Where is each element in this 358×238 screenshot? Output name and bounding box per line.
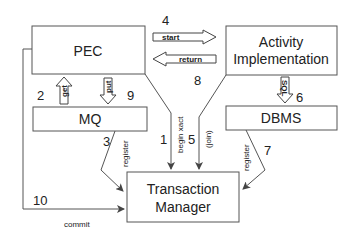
activity-label-line1: Activity — [259, 34, 303, 50]
sql-label: SQL — [280, 80, 289, 97]
return-label: return — [179, 55, 202, 64]
get-label: get — [60, 85, 69, 97]
begin-xact-label: begin xact — [176, 116, 185, 153]
return-arrow: return 8 — [153, 52, 216, 88]
start-number: 4 — [162, 13, 169, 28]
mq-register-number: 3 — [103, 134, 110, 149]
join-label: (join) — [204, 130, 213, 148]
put-number: 9 — [127, 88, 134, 103]
get-number: 2 — [37, 88, 44, 103]
join-number: 5 — [188, 132, 195, 147]
begin-xact-edge: begin xact 1 — [145, 74, 185, 169]
mq-register-label: register — [121, 140, 130, 167]
start-arrow: start 4 — [153, 13, 216, 44]
begin-xact-number: 1 — [160, 132, 167, 147]
dbms-node: DBMS — [226, 106, 337, 130]
commit-label: commit — [64, 220, 91, 229]
activity-label-line2: Implementation — [233, 51, 329, 67]
start-label: start — [162, 33, 180, 42]
activity-implementation-node: Activity Implementation — [226, 26, 337, 75]
join-edge: (join) 5 — [188, 75, 226, 169]
dbms-register-edge: register 7 — [242, 130, 271, 189]
return-number: 8 — [194, 73, 201, 88]
dbms-register-number: 7 — [264, 143, 271, 158]
mq-label: MQ — [79, 111, 102, 127]
mq-register-edge: register 3 — [101, 131, 130, 191]
dbms-label: DBMS — [261, 110, 301, 126]
sql-number: 6 — [296, 90, 303, 105]
pec-label: PEC — [74, 43, 103, 59]
dbms-register-label: register — [242, 144, 251, 171]
get-arrow: get 2 — [37, 77, 72, 104]
put-label: put — [104, 80, 113, 93]
put-arrow: put 9 — [100, 78, 134, 104]
pec-node: PEC — [32, 26, 145, 74]
sql-arrow: SQL 6 — [277, 77, 303, 105]
mq-node: MQ — [33, 107, 147, 131]
tm-label-line2: Manager — [155, 199, 211, 215]
transaction-manager-node: Transaction Manager — [127, 172, 239, 222]
diagram-canvas: PEC Activity Implementation MQ DBMS Tran… — [0, 0, 358, 238]
commit-number: 10 — [33, 193, 47, 208]
tm-label-line1: Transaction — [147, 181, 220, 197]
